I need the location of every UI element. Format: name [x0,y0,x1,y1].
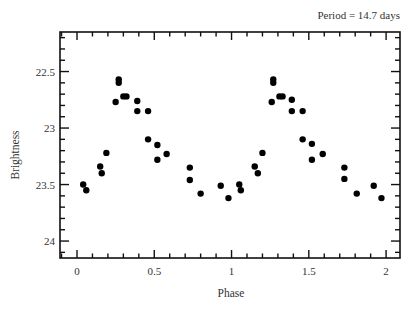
x-axis-label: Phase [0,287,414,299]
x-tick-label: 0 [74,265,80,277]
data-point [197,190,203,196]
data-point [134,98,140,104]
data-point [354,190,360,196]
data-point [269,99,275,105]
data-point [99,170,105,176]
data-points [80,76,385,201]
data-point [103,150,109,156]
period-annotation: Period = 14.7 days [317,9,400,21]
x-tick-label: 2 [383,265,389,277]
data-point [252,163,258,169]
data-point [289,108,295,114]
data-point [163,151,169,157]
data-point [320,151,326,157]
data-point [83,187,89,193]
data-point [270,80,276,86]
data-point [279,93,285,99]
data-point [341,176,347,182]
data-point [259,150,265,156]
data-point [187,164,193,170]
y-tick-label: 23.5 [36,179,56,191]
x-tick-labels: 00.511.52 [74,265,389,277]
data-point [255,170,261,176]
data-point [218,182,224,188]
x-tick-label: 0.5 [147,265,161,277]
y-axis-label: Brightness [9,125,21,185]
data-point [289,97,295,103]
x-tick-label: 1.5 [302,265,316,277]
plot-frame [60,32,400,258]
data-point [145,136,151,142]
data-point [97,163,103,169]
data-point [123,93,129,99]
brightness-phase-chart: 00.511.52 22.52323.524 [0,0,414,310]
data-point [134,108,140,114]
y-tick-labels: 22.52323.524 [36,66,56,248]
data-point [154,156,160,162]
minor-ticks [60,32,400,258]
data-point [116,80,122,86]
data-point [145,108,151,114]
y-tick-label: 22.5 [36,66,56,78]
data-point [309,156,315,162]
x-tick-label: 1 [229,265,235,277]
data-point [309,141,315,147]
data-point [341,164,347,170]
data-point [80,181,86,187]
data-point [371,182,377,188]
y-tick-label: 24 [44,235,56,247]
data-point [299,136,305,142]
data-point [112,99,118,105]
data-point [299,108,305,114]
major-ticks [60,32,400,258]
data-point [154,142,160,148]
data-point [378,195,384,201]
data-point [225,195,231,201]
data-point [187,177,193,183]
data-point [238,187,244,193]
y-tick-label: 23 [44,122,56,134]
data-point [236,181,242,187]
